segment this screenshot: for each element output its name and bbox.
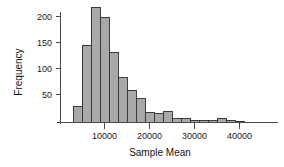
histogram-bar — [217, 118, 226, 122]
histogram-bars — [73, 7, 244, 122]
histogram-bar — [73, 107, 82, 123]
x-tick-label: 10000 — [92, 131, 117, 141]
x-axis-title: Sample Mean — [129, 147, 191, 158]
histogram-bar — [109, 52, 118, 122]
histogram-bar — [100, 17, 109, 122]
histogram-bar — [127, 90, 136, 122]
histogram-figure: Frequency 200 150 100 50 10000 20000 300… — [0, 0, 284, 167]
x-axis-ticks: 10000 20000 30000 40000 — [92, 123, 252, 142]
histogram-bar — [91, 7, 100, 122]
histogram-bar — [172, 119, 181, 123]
y-tick-label: 150 — [37, 38, 52, 48]
histogram-bar — [181, 119, 190, 123]
y-tick-label: 200 — [37, 12, 52, 22]
histogram-bar — [82, 45, 91, 122]
histogram-bar — [145, 112, 154, 122]
histogram-svg: Frequency 200 150 100 50 10000 20000 300… — [0, 0, 284, 167]
x-tick-label: 20000 — [137, 131, 162, 141]
x-tick-label: 40000 — [227, 131, 252, 141]
x-tick-label: 30000 — [182, 131, 207, 141]
y-tick-label: 100 — [37, 64, 52, 74]
y-axis-title: Frequency — [13, 48, 24, 95]
histogram-bar — [118, 78, 127, 123]
y-tick-label: 50 — [42, 90, 52, 100]
histogram-bar — [136, 99, 145, 123]
histogram-bar — [154, 113, 163, 122]
histogram-bar — [163, 112, 172, 123]
y-axis-ticks: 200 150 100 50 — [37, 12, 61, 100]
